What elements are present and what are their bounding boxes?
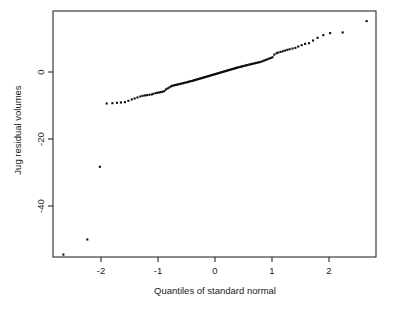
data-point	[304, 43, 306, 45]
y-tick-label: 0	[35, 69, 46, 74]
data-point	[99, 166, 101, 168]
data-point	[322, 34, 324, 36]
data-point	[297, 45, 299, 47]
data-point	[127, 100, 129, 102]
x-tick-label: 0	[212, 265, 217, 276]
x-tick-label: 1	[269, 265, 274, 276]
y-tick-label: -20	[35, 132, 46, 146]
data-point	[120, 101, 122, 103]
data-point	[124, 101, 126, 103]
data-point	[152, 93, 154, 95]
data-point	[366, 20, 368, 22]
data-point	[291, 48, 293, 50]
data-point	[282, 50, 284, 52]
qq-plot-svg: -2 -1 0 1 2 0 -20 -40 Quantiles of stand…	[0, 0, 393, 311]
data-point	[146, 94, 148, 96]
data-point	[342, 31, 344, 33]
y-tick-label: -40	[35, 199, 46, 213]
data-point	[308, 42, 310, 44]
data-point	[289, 48, 291, 50]
qq-plot-figure: -2 -1 0 1 2 0 -20 -40 Quantiles of stand…	[0, 0, 393, 311]
data-point	[329, 32, 331, 34]
data-point	[272, 56, 274, 58]
data-point	[317, 37, 319, 39]
x-tick-label: -1	[154, 265, 162, 276]
data-point	[134, 97, 136, 99]
data-point	[116, 102, 118, 104]
data-point	[136, 96, 138, 98]
data-point	[139, 95, 141, 97]
data-point	[284, 50, 286, 52]
data-point	[301, 44, 303, 46]
data-point	[86, 238, 88, 240]
data-point	[106, 102, 108, 104]
data-point	[111, 102, 113, 104]
y-axis-title: Jug residual volumes	[12, 85, 23, 174]
data-point	[294, 47, 296, 49]
data-point	[62, 254, 64, 256]
data-point	[277, 52, 279, 54]
data-point	[312, 39, 314, 41]
data-point	[280, 51, 282, 53]
figure-background	[0, 0, 393, 311]
data-point	[286, 49, 288, 51]
x-axis-title: Quantiles of standard normal	[154, 285, 276, 296]
data-point	[273, 54, 275, 56]
data-point	[148, 94, 150, 96]
data-point	[131, 98, 133, 100]
x-tick-label: -2	[97, 265, 105, 276]
data-point	[142, 95, 144, 97]
data-point	[144, 94, 146, 96]
x-tick-label: 2	[326, 265, 331, 276]
